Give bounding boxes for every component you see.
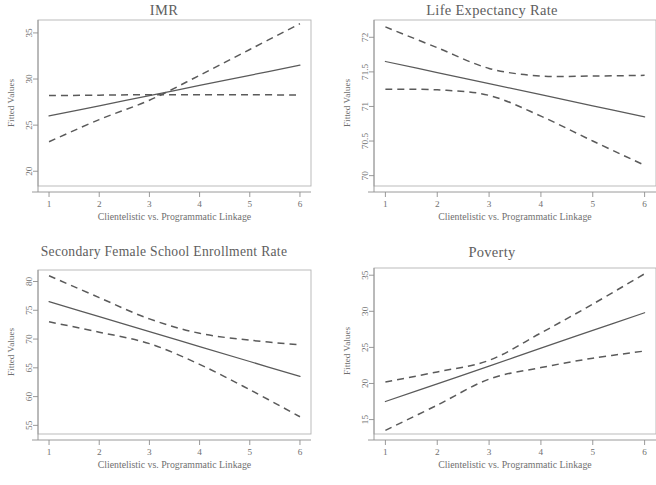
x-tick-label: 6 [298, 447, 303, 457]
x-tick-label: 4 [197, 199, 202, 209]
x-tick-label: 6 [642, 199, 647, 209]
x-axis-label: Clientelistic vs. Programmatic Linkage [438, 211, 592, 222]
y-axis-label: Fitted Values [6, 328, 16, 376]
plot-frame [374, 268, 656, 434]
y-tick-label: 70 [360, 171, 370, 181]
y-tick-label: 20 [360, 378, 370, 388]
fitted-line [49, 302, 300, 377]
panel-secondary-female-school-enrollment-rate: Secondary Female School Enrollment Rate … [0, 242, 328, 485]
y-tick-label: 60 [24, 392, 34, 402]
x-axis-label: Clientelistic vs. Programmatic Linkage [98, 459, 252, 470]
x-axis-label: Clientelistic vs. Programmatic Linkage [438, 459, 592, 470]
y-axis-label: Fitted Values [342, 79, 352, 127]
x-tick-label: 3 [147, 199, 152, 209]
x-tick-label: 4 [539, 447, 544, 457]
plot-frame [38, 20, 311, 186]
y-tick-label: 80 [24, 277, 34, 287]
x-tick-label: 5 [590, 199, 595, 209]
x-tick-label: 3 [487, 447, 492, 457]
x-tick-label: 5 [247, 199, 252, 209]
fitted-line [49, 65, 300, 116]
plot-imr: 20253035123456Clientelistic vs. Programm… [0, 0, 328, 242]
plot-life-expectancy-rate: 7070.57171.572123456Clientelistic vs. Pr… [328, 0, 656, 242]
fitted-line [385, 313, 644, 402]
y-axis-label: Fitted Values [342, 327, 352, 375]
y-tick-label: 35 [24, 28, 34, 38]
confidence-interval-line [385, 89, 644, 165]
y-tick-label: 55 [24, 420, 34, 430]
x-tick-label: 4 [197, 447, 202, 457]
y-tick-label: 71 [360, 101, 370, 111]
x-axis-label: Clientelistic vs. Programmatic Linkage [98, 211, 252, 222]
figure-panel-grid: IMR 20253035123456Clientelistic vs. Prog… [0, 0, 656, 485]
x-tick-label: 1 [383, 199, 388, 209]
confidence-interval-line [49, 24, 300, 142]
panel-life-expectancy-rate: Life Expectancy Rate 7070.57171.57212345… [328, 0, 656, 242]
y-tick-label: 71.5 [360, 63, 370, 79]
y-tick-label: 72 [360, 32, 370, 42]
confidence-interval-line [49, 95, 300, 96]
y-tick-label: 35 [360, 270, 370, 280]
x-tick-label: 3 [487, 199, 492, 209]
x-tick-label: 6 [642, 447, 647, 457]
x-tick-label: 5 [590, 447, 595, 457]
y-axis-label: Fitted Values [6, 79, 16, 127]
y-tick-label: 70.5 [360, 133, 370, 149]
x-tick-label: 2 [97, 199, 102, 209]
y-tick-label: 25 [360, 342, 370, 352]
y-tick-label: 30 [24, 74, 34, 84]
panel-poverty: Poverty 1520253035123456Clientelistic vs… [328, 242, 656, 485]
y-tick-label: 25 [24, 120, 34, 130]
confidence-interval-line [385, 27, 644, 77]
plot-poverty: 1520253035123456Clientelistic vs. Progra… [328, 242, 656, 485]
x-tick-label: 1 [383, 447, 388, 457]
confidence-interval-line [385, 274, 644, 382]
confidence-interval-line [49, 276, 300, 345]
x-tick-label: 1 [47, 199, 52, 209]
panel-imr: IMR 20253035123456Clientelistic vs. Prog… [0, 0, 328, 242]
x-tick-label: 2 [97, 447, 102, 457]
x-tick-label: 4 [539, 199, 544, 209]
x-tick-label: 2 [435, 199, 440, 209]
x-tick-label: 5 [247, 447, 252, 457]
plot-frame [38, 270, 311, 434]
plot-secondary-female-school-enrollment-rate: 556065707580123456Clientelistic vs. Prog… [0, 242, 328, 485]
confidence-interval-line [49, 322, 300, 417]
y-tick-label: 30 [360, 306, 370, 316]
y-tick-label: 15 [360, 415, 370, 425]
plot-frame [374, 20, 656, 186]
y-tick-label: 70 [24, 334, 34, 344]
x-tick-label: 6 [298, 199, 303, 209]
x-tick-label: 1 [47, 447, 52, 457]
y-tick-label: 20 [24, 166, 34, 176]
y-tick-label: 65 [24, 363, 34, 373]
x-tick-label: 3 [147, 447, 152, 457]
y-tick-label: 75 [24, 305, 34, 315]
confidence-interval-line [385, 351, 644, 430]
x-tick-label: 2 [435, 447, 440, 457]
